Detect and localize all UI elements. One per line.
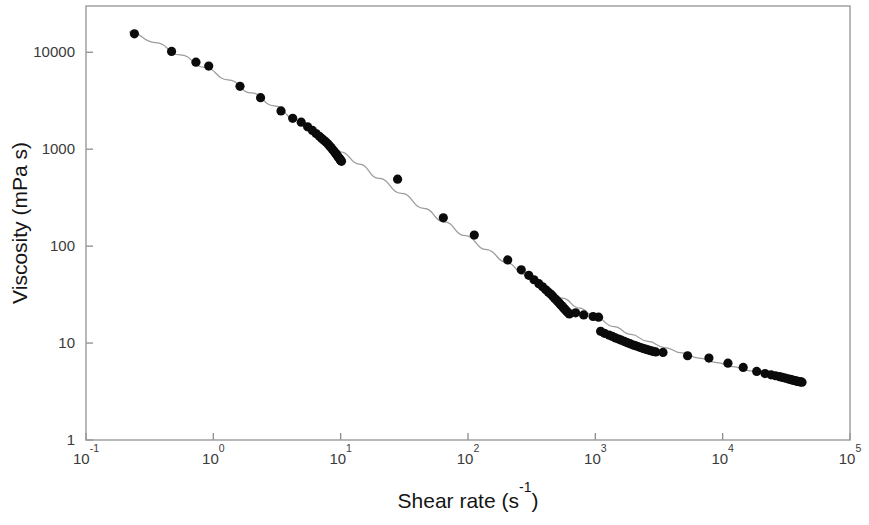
data-point bbox=[288, 114, 297, 123]
data-point bbox=[470, 230, 479, 239]
y-tick-label-3: 1000 bbox=[42, 140, 75, 157]
data-point bbox=[704, 353, 713, 362]
data-point bbox=[739, 363, 748, 372]
data-point bbox=[752, 367, 761, 376]
data-point bbox=[517, 265, 526, 274]
data-point bbox=[439, 213, 448, 222]
data-point bbox=[723, 359, 732, 368]
viscosity-shear-rate-chart: 10-1100101102103104105 110100100010000 S… bbox=[0, 0, 869, 525]
data-point bbox=[683, 351, 692, 360]
data-point bbox=[204, 61, 213, 70]
data-point bbox=[191, 58, 200, 67]
data-point bbox=[167, 47, 176, 56]
data-point bbox=[393, 175, 402, 184]
data-point bbox=[337, 157, 346, 166]
data-point bbox=[579, 310, 588, 319]
data-point bbox=[571, 308, 580, 317]
data-point bbox=[256, 93, 265, 102]
y-axis-title: Viscosity (mPa s) bbox=[8, 142, 31, 304]
y-tick-label-1: 10 bbox=[58, 334, 75, 351]
data-point bbox=[503, 255, 512, 264]
data-point bbox=[276, 106, 285, 115]
data-point bbox=[130, 29, 139, 38]
y-tick-label-2: 100 bbox=[50, 237, 75, 254]
y-tick-label-4: 10000 bbox=[33, 43, 75, 60]
data-point bbox=[658, 348, 667, 357]
chart-background bbox=[0, 0, 869, 525]
data-point bbox=[594, 313, 603, 322]
y-tick-label-0: 1 bbox=[67, 431, 75, 448]
data-point bbox=[797, 378, 806, 387]
chart-canvas: 10-1100101102103104105 110100100010000 S… bbox=[0, 0, 869, 525]
data-point bbox=[235, 82, 244, 91]
